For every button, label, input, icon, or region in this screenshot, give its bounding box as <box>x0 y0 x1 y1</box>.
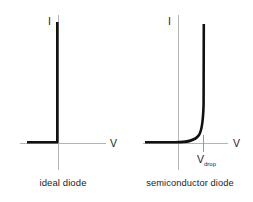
x-axis-label-semiconductor: V <box>233 137 240 149</box>
panel-semiconductor-diode: I V V drop semiconductor diode <box>127 0 253 202</box>
x-axis-label-ideal: V <box>110 137 117 149</box>
y-axis-label-ideal: I <box>48 15 51 27</box>
plot-semiconductor-diode: I V V drop <box>127 0 253 175</box>
curve-semiconductor-diode <box>145 24 204 142</box>
caption-ideal-diode: ideal diode <box>0 177 126 189</box>
curve-ideal-diode <box>27 22 57 142</box>
vdrop-label: V <box>197 153 204 165</box>
y-axis-label-semiconductor: I <box>168 15 171 27</box>
panel-ideal-diode: I V ideal diode <box>0 0 126 202</box>
caption-semiconductor-diode: semiconductor diode <box>127 177 253 189</box>
diode-iv-characteristics-figure: I V ideal diode I V V drop semiconductor… <box>0 0 253 202</box>
vdrop-subscript: drop <box>204 161 217 167</box>
plot-ideal-diode: I V <box>0 0 126 175</box>
